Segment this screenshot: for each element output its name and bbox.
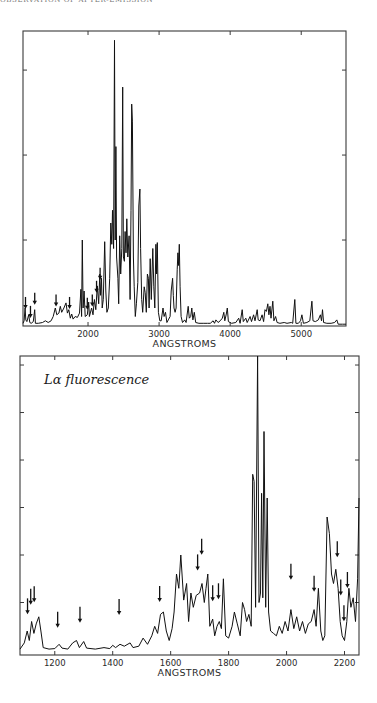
x-tick-label: 2200 bbox=[334, 658, 356, 668]
arrowhead-icon bbox=[23, 305, 27, 309]
x-axis-title: ANGSTROMS bbox=[158, 667, 222, 678]
line-marker-arrows bbox=[25, 539, 349, 628]
x-tick-label: 5000 bbox=[290, 329, 312, 339]
arrowhead-icon bbox=[32, 598, 36, 602]
arrowhead-icon bbox=[67, 305, 71, 309]
x-tick-label: 2000 bbox=[77, 329, 99, 339]
arrowhead-icon bbox=[312, 588, 316, 592]
arrowhead-icon bbox=[55, 624, 59, 628]
arrowhead-icon bbox=[199, 551, 203, 555]
x-tick-label: 1400 bbox=[102, 658, 124, 668]
arrowhead-icon bbox=[54, 302, 58, 306]
x-tick-label: 2000 bbox=[276, 658, 298, 668]
x-tick-label: 1200 bbox=[44, 658, 66, 668]
x-axis-title: ANGSTROMS bbox=[153, 338, 217, 349]
axis-ticks bbox=[23, 31, 346, 326]
arrowhead-icon bbox=[195, 566, 199, 570]
spectrum-trace bbox=[23, 40, 346, 324]
arrowhead-icon bbox=[25, 610, 29, 614]
arrowhead-icon bbox=[335, 553, 339, 557]
arrowhead-icon bbox=[216, 595, 220, 599]
arrowhead-icon bbox=[339, 592, 343, 596]
arrowhead-icon bbox=[157, 598, 161, 602]
arrowhead-icon bbox=[117, 611, 121, 615]
arrowhead-icon bbox=[289, 576, 293, 580]
arrowhead-icon bbox=[78, 619, 82, 623]
chart-annotation: Lα fluorescence bbox=[43, 372, 150, 387]
arrowhead-icon bbox=[29, 601, 33, 605]
lyman-alpha-fluorescence-chart: 120014001600180020002200 Lα fluorescence… bbox=[20, 356, 359, 678]
arrowhead-icon bbox=[210, 597, 214, 601]
x-tick-label: 4000 bbox=[219, 329, 241, 339]
spectrum-trace bbox=[20, 356, 359, 649]
plot-frame bbox=[23, 31, 346, 326]
arrowhead-icon bbox=[345, 584, 349, 588]
figure: 2000300040005000 ANGSTROMS 1200140016001… bbox=[0, 0, 377, 703]
arrowhead-icon bbox=[33, 301, 37, 305]
emission-spectrum-chart: 2000300040005000 ANGSTROMS bbox=[23, 31, 346, 349]
arrowhead-icon bbox=[342, 617, 346, 621]
